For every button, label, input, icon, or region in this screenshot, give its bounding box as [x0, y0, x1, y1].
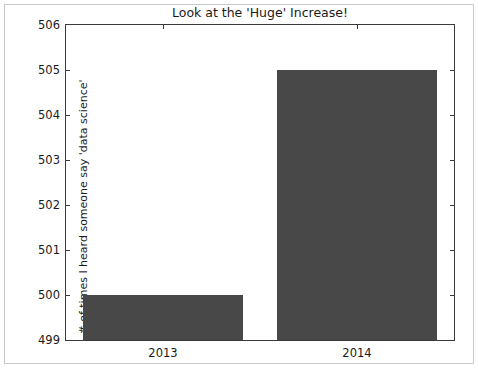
figure: Look at the 'Huge' Increase! # of times …: [0, 0, 478, 368]
plot-axes: # of times I heard someone say 'data sci…: [65, 24, 455, 341]
y-tick-label: 505: [8, 63, 60, 77]
x-tick-label: 2014: [342, 346, 371, 360]
chart-title: Look at the 'Huge' Increase!: [65, 5, 455, 21]
y-tick-label: 506: [8, 18, 60, 32]
y-tick-label: 504: [8, 108, 60, 122]
y-tick-label: 501: [8, 243, 60, 257]
y-tick-label: 499: [8, 333, 60, 347]
y-tick-label: 503: [8, 153, 60, 167]
x-tick-label: 2013: [148, 346, 177, 360]
bar: [277, 70, 436, 340]
bar: [83, 295, 242, 340]
y-tick-label: 502: [8, 198, 60, 212]
y-tick-label: 500: [8, 288, 60, 302]
plot-area: [66, 25, 454, 340]
